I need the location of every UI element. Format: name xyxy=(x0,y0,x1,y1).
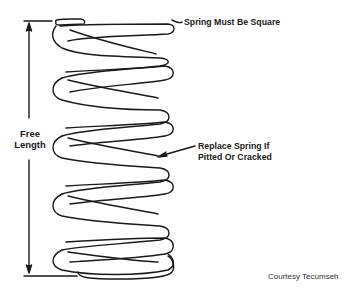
arrowhead-up-icon xyxy=(27,23,32,31)
replace-leader-arrow-icon xyxy=(158,152,167,157)
arrowhead-down-icon xyxy=(27,265,32,273)
spring-coil-4c xyxy=(66,180,173,204)
replace-spring-label-line1: Replace Spring If xyxy=(198,140,272,151)
spring-diagram xyxy=(0,0,353,298)
spring-top-end xyxy=(56,19,85,25)
spring-square-label: Spring Must Be Square xyxy=(184,16,280,27)
spring-coil-4b xyxy=(68,196,158,214)
spring-coil-1c xyxy=(70,30,156,54)
credit-text: Courtesy Tecumseh xyxy=(268,272,339,281)
replace-spring-label-line2: Pitted Or Cracked xyxy=(198,151,272,162)
free-length-label: Free Length xyxy=(10,128,50,150)
square-leader-line xyxy=(172,20,182,23)
free-length-label-line2: Length xyxy=(10,139,50,150)
spring-coil-3c xyxy=(66,122,173,146)
free-length-label-line1: Free xyxy=(10,128,50,139)
replace-spring-label: Replace Spring If Pitted Or Cracked xyxy=(198,140,272,162)
spring-coil-3b xyxy=(68,138,158,156)
